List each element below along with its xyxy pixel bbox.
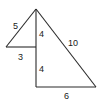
large-hypotenuse-edge [36,9,96,87]
label-large-hypotenuse: 10 [68,38,78,48]
label-large-base: 6 [64,91,69,99]
label-small-hypotenuse: 5 [13,21,18,31]
triangle-diagram: 5 3 4 4 10 6 [0,0,97,99]
label-lower-vertical: 4 [39,64,44,74]
small-hypotenuse-edge [6,9,36,47]
label-upper-vertical: 4 [39,29,44,39]
label-small-base: 3 [18,52,23,62]
